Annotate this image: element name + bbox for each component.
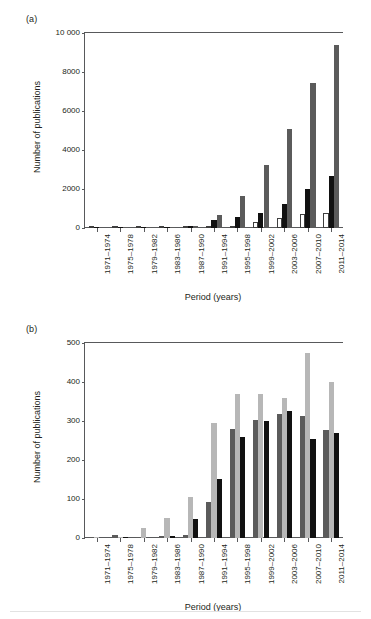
bar xyxy=(146,227,151,228)
bar xyxy=(94,227,99,228)
x-tick-mark xyxy=(214,538,215,542)
x-tick-label: 1999–2002 xyxy=(268,544,276,584)
y-tick-mark xyxy=(82,111,85,112)
y-tick-label: 4000 xyxy=(62,146,80,154)
x-tick-label: 1995–1998 xyxy=(244,234,252,274)
y-tick-label: 8000 xyxy=(62,68,80,76)
x-tick-label: 2003–2006 xyxy=(291,234,299,274)
bar xyxy=(170,536,175,538)
x-tick-label: 1991–1994 xyxy=(221,234,229,274)
x-tick-mark xyxy=(284,228,285,232)
y-tick-mark xyxy=(82,343,85,344)
bar xyxy=(240,437,245,538)
bar xyxy=(193,226,198,228)
x-tick-label: 1987–1990 xyxy=(198,544,206,584)
y-tick-label: 6000 xyxy=(62,107,80,115)
x-tick-mark xyxy=(97,538,98,542)
x-tick-mark xyxy=(120,538,121,542)
bar xyxy=(94,537,99,538)
y-tick-mark xyxy=(82,421,85,422)
y-tick-mark xyxy=(82,538,85,539)
panel-a: (a) Number of publications 0200040006000… xyxy=(0,0,371,310)
x-tick-label: 1983–1986 xyxy=(174,544,182,584)
x-tick-label: 1979–1982 xyxy=(151,544,159,584)
bar xyxy=(310,439,315,538)
bar xyxy=(193,519,198,539)
x-tick-mark xyxy=(261,228,262,232)
y-tick-label: 10 000 xyxy=(56,29,80,37)
x-tick-label: 2007–2010 xyxy=(315,544,323,584)
x-tick-mark xyxy=(167,228,168,232)
x-tick-label: 2003–2006 xyxy=(291,544,299,584)
x-tick-mark xyxy=(144,228,145,232)
x-tick-mark xyxy=(120,228,121,232)
panel-b: (b) Number of publications 0100200300400… xyxy=(0,310,371,619)
bar xyxy=(287,129,292,228)
y-tick-mark xyxy=(82,72,85,73)
bar xyxy=(334,45,339,228)
panel-a-x-axis-label: Period (years) xyxy=(84,292,342,302)
x-tick-label: 1971–1974 xyxy=(104,234,112,274)
x-tick-mark xyxy=(308,228,309,232)
x-tick-label: 1991–1994 xyxy=(221,544,229,584)
x-tick-mark xyxy=(308,538,309,542)
x-tick-mark xyxy=(261,538,262,542)
x-tick-mark xyxy=(167,538,168,542)
x-tick-label: 1987–1990 xyxy=(198,234,206,274)
x-tick-mark xyxy=(331,228,332,232)
x-tick-label: 2007–2010 xyxy=(315,234,323,274)
bar xyxy=(217,479,222,538)
y-tick-mark xyxy=(82,228,85,229)
panel-a-tag: (a) xyxy=(26,14,37,24)
x-tick-mark xyxy=(284,538,285,542)
x-tick-label: 1983–1986 xyxy=(174,234,182,274)
panel-a-y-axis-label: Number of publications xyxy=(32,52,42,202)
y-tick-label: 400 xyxy=(67,378,80,386)
x-tick-mark xyxy=(191,538,192,542)
x-tick-mark xyxy=(331,538,332,542)
publications-figure: (a) Number of publications 0200040006000… xyxy=(0,0,371,619)
x-tick-label: 1999–2002 xyxy=(268,234,276,274)
panel-b-plot-area: 0100200300400500 1971–19741975–19781979–… xyxy=(84,342,343,538)
x-tick-mark xyxy=(97,228,98,232)
x-tick-label: 1995–1998 xyxy=(244,544,252,584)
bar xyxy=(264,165,269,228)
x-tick-mark xyxy=(237,538,238,542)
bar xyxy=(123,227,128,228)
x-tick-mark xyxy=(144,538,145,542)
panel-a-plot-area: 0200040006000800010 000 1971–19741975–19… xyxy=(84,32,343,228)
figure-bottom-rule xyxy=(10,611,361,612)
y-tick-label: 0 xyxy=(76,534,80,542)
bar xyxy=(217,215,222,228)
x-tick-mark xyxy=(237,228,238,232)
bar xyxy=(123,537,128,538)
panel-b-tag: (b) xyxy=(26,324,37,334)
bar xyxy=(264,421,269,538)
y-tick-mark xyxy=(82,499,85,500)
x-tick-label: 1979–1982 xyxy=(151,234,159,274)
bar xyxy=(310,83,315,228)
y-tick-label: 300 xyxy=(67,417,80,425)
bar xyxy=(164,518,169,538)
bar xyxy=(287,411,292,538)
y-tick-mark xyxy=(82,460,85,461)
x-tick-label: 1971–1974 xyxy=(104,544,112,584)
bar xyxy=(240,196,245,228)
y-tick-label: 200 xyxy=(67,456,80,464)
bar xyxy=(141,528,146,538)
y-tick-label: 500 xyxy=(67,339,80,347)
bar xyxy=(170,227,175,228)
x-tick-label: 2011–2014 xyxy=(338,544,346,583)
x-tick-mark xyxy=(191,228,192,232)
y-tick-mark xyxy=(82,150,85,151)
bar xyxy=(334,433,339,538)
y-tick-mark xyxy=(82,33,85,34)
y-tick-label: 2000 xyxy=(62,185,80,193)
y-tick-label: 0 xyxy=(76,224,80,232)
x-tick-label: 1975–1978 xyxy=(127,544,135,584)
x-tick-label: 2011–2014 xyxy=(338,234,346,273)
y-tick-mark xyxy=(82,189,85,190)
panel-b-y-axis-label: Number of publications xyxy=(32,362,42,512)
y-tick-mark xyxy=(82,382,85,383)
x-tick-label: 1975–1978 xyxy=(127,234,135,274)
